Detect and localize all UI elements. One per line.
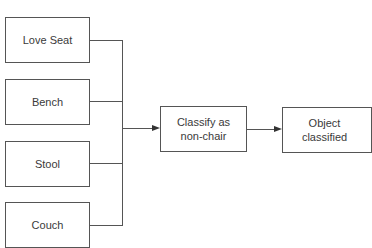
input-box-couch: Couch bbox=[5, 202, 90, 248]
input-box-love-seat: Love Seat bbox=[5, 17, 90, 63]
input-box-stool: Stool bbox=[5, 141, 90, 187]
output-label: Object classified bbox=[295, 116, 355, 144]
input-label: Bench bbox=[32, 95, 63, 109]
process-label: Classify as non-chair bbox=[173, 115, 235, 143]
arrowhead-icon bbox=[274, 126, 282, 132]
connector-couch bbox=[90, 225, 123, 226]
input-label: Stool bbox=[35, 157, 60, 171]
output-box-object-classified: Object classified bbox=[282, 107, 372, 153]
input-box-bench: Bench bbox=[5, 79, 90, 125]
arrow-to-output-line bbox=[247, 129, 275, 130]
connector-love-seat bbox=[90, 40, 123, 41]
vertical-bus-line bbox=[122, 40, 123, 226]
arrowhead-icon bbox=[152, 125, 160, 131]
process-box-classify: Classify as non-chair bbox=[160, 106, 247, 152]
connector-stool bbox=[90, 163, 123, 164]
arrow-to-process-line bbox=[122, 128, 153, 129]
input-label: Love Seat bbox=[23, 33, 73, 47]
connector-bench bbox=[90, 101, 123, 102]
input-label: Couch bbox=[32, 218, 64, 232]
